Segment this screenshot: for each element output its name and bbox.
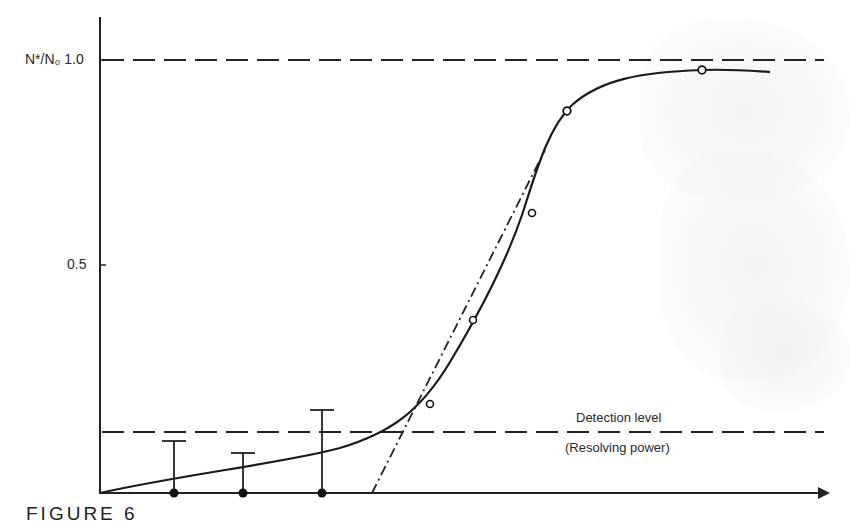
open-data-point — [427, 401, 434, 408]
filled-data-point — [170, 489, 179, 498]
open-data-point — [470, 317, 477, 324]
error-bar — [231, 453, 255, 493]
y-tick-label-0-5: 0.5 — [67, 256, 86, 272]
open-data-point — [563, 107, 571, 115]
detection-level-label: Detection level — [576, 410, 661, 425]
error-bar — [162, 441, 186, 493]
y-tick-label-1: N*/N₀ 1.0 — [25, 51, 84, 67]
x-axis-arrow-icon — [818, 487, 830, 499]
figure-caption: FIGURE 6 — [26, 503, 138, 525]
extrapolation-line — [372, 150, 545, 493]
open-data-point — [529, 210, 536, 217]
fitted-curve — [100, 70, 770, 493]
resolving-power-label: (Resolving power) — [565, 440, 670, 455]
filled-data-point — [318, 489, 327, 498]
filled-data-point — [239, 489, 248, 498]
open-data-point — [698, 66, 706, 74]
